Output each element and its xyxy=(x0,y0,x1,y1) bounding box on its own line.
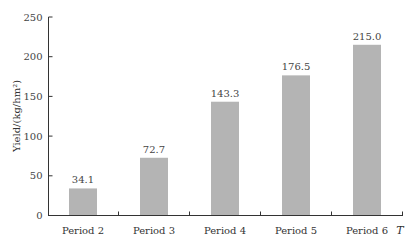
y-tick-label: 150 xyxy=(23,91,42,102)
category-label: Period 3 xyxy=(133,225,175,236)
bar-value-label: 34.1 xyxy=(72,174,94,185)
bar xyxy=(211,102,239,216)
bar-value-label: 143.3 xyxy=(211,88,240,99)
bar-value-label: 215.0 xyxy=(353,31,382,42)
bar xyxy=(69,188,97,215)
y-tick-label: 100 xyxy=(23,131,42,142)
y-tick-label: 200 xyxy=(23,51,42,62)
y-tick-label: 250 xyxy=(23,12,42,23)
bar-value-label: 72.7 xyxy=(143,144,165,155)
category-label: Period 4 xyxy=(204,225,246,236)
bars: 34.1Period 272.7Period 3143.3Period 4176… xyxy=(62,31,388,236)
y-tick-label: 0 xyxy=(36,210,42,221)
category-label: Period 5 xyxy=(275,225,317,236)
bar xyxy=(282,75,310,215)
y-axis-label: Yield/(kg/hm²) xyxy=(11,80,22,153)
x-axis-label: T xyxy=(396,224,405,237)
category-label: Period 6 xyxy=(346,225,388,236)
category-label: Period 2 xyxy=(62,225,104,236)
bar xyxy=(353,45,381,216)
bar-chart: 34.1Period 272.7Period 3143.3Period 4176… xyxy=(0,0,418,242)
y-tick-label: 50 xyxy=(30,170,43,181)
bar xyxy=(140,158,168,216)
bar-value-label: 176.5 xyxy=(282,61,311,72)
